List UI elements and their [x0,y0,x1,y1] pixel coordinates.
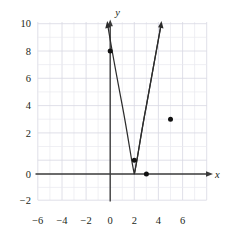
data-point [132,158,137,163]
x-tick-label: 2 [132,215,137,226]
y-tick-label: 0 [26,169,31,180]
y-tick-label: 4 [26,100,32,111]
data-point [144,172,149,177]
y-tick-label: −2 [20,195,31,206]
graph-figure: 10 8 6 4 2 0 −2 −6 −4 −2 0 2 4 6 y x [0,0,229,238]
y-tick-label: 10 [21,18,32,29]
y-axis-label: y [114,7,120,18]
y-tick-label: 6 [26,73,31,84]
x-tick-label: −4 [56,215,68,226]
y-tick-label: 2 [26,128,31,139]
x-axis-label: x [214,169,220,180]
x-tick-label: −6 [32,215,43,226]
x-tick-label: 6 [180,215,185,226]
data-point [168,117,173,122]
x-tick-label: 4 [156,215,162,226]
y-tick-label: 8 [26,46,31,57]
x-tick-label: 0 [108,215,113,226]
data-point [108,49,113,54]
x-tick-label: −2 [81,215,92,226]
coordinate-plane-plot: 10 8 6 4 2 0 −2 −6 −4 −2 0 2 4 6 y x [0,0,229,238]
